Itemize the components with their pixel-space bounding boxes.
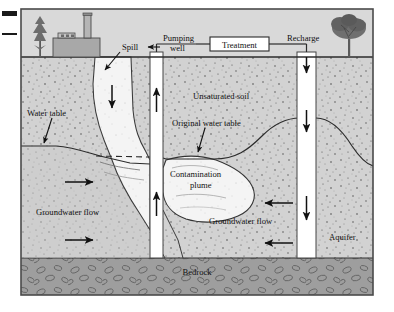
label-original-water-table: Original water table [172,118,241,128]
recharge-well-shaft [297,52,316,258]
label-unsaturated-soil: Unsaturated soil [193,91,250,101]
label-pumping-well-line2: well [170,43,185,53]
label-recharge: Recharge [287,33,319,43]
label-bedrock: Bedrock [182,267,212,277]
figure-canvas: Spill Pumping well Treatment Recharge Wa… [0,0,394,312]
label-treatment: Treatment [222,40,258,50]
label-aquifer: Aquifer [329,232,356,242]
label-groundwater-flow-right: Groundwater flow [209,216,273,226]
label-groundwater-flow-left: Groundwater flow [36,207,100,217]
label-water-table: Water table [27,108,66,118]
label-contamination-line1: Contamination [170,169,222,179]
pumping-well-shaft [150,52,163,258]
label-spill: Spill [122,42,139,52]
label-contamination-line2: plume [190,180,212,190]
groundwater-diagram: Spill Pumping well Treatment Recharge Wa… [0,0,394,312]
label-pumping-well-line1: Pumping [163,33,195,43]
